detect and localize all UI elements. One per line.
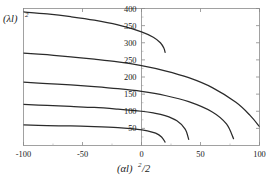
y-axis-label-base: (λl) (3, 13, 18, 25)
x-axis-label-tail: /2 (141, 163, 151, 174)
y-tick-label: 400 (124, 5, 137, 14)
x-tick-label: 50 (196, 150, 204, 159)
x-tick-label: -50 (77, 150, 88, 159)
y-tick-label: 200 (124, 73, 137, 82)
plot-canvas: -100-50050100 50100150200250300350400 (λ… (0, 0, 274, 179)
y-tick-label: 100 (124, 107, 137, 116)
x-tick-label: 0 (139, 150, 143, 159)
x-tick-label: 100 (253, 150, 266, 159)
y-axis-label-exponent: 2 (25, 11, 29, 19)
y-tick-label: 50 (128, 124, 136, 133)
y-tick-label: 350 (124, 22, 137, 31)
y-tick-label: 250 (124, 56, 137, 65)
x-axis-label-base: (αl) (117, 163, 133, 175)
contour-plot-figure: -100-50050100 50100150200250300350400 (λ… (0, 0, 274, 179)
y-tick-label: 300 (124, 39, 137, 48)
y-tick-label: 150 (124, 90, 137, 99)
figure-background (0, 0, 274, 179)
x-tick-label: -100 (16, 150, 31, 159)
